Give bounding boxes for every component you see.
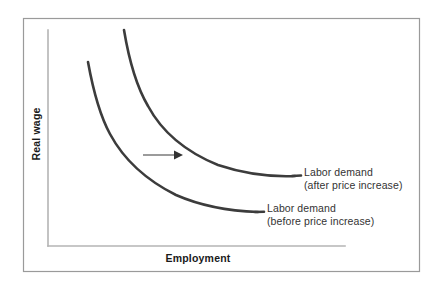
labor-demand-shift-figure: Labor demand (after price increase) Labo…: [0, 0, 440, 293]
curve-label-after-line2: (after price increase): [304, 179, 402, 192]
chart-canvas: [0, 0, 440, 293]
curve-label-after-line1: Labor demand: [304, 166, 402, 179]
x-axis-title: Employment: [118, 252, 278, 264]
curve-label-before: Labor demand (before price increase): [267, 202, 374, 228]
shift-arrow-head-icon: [174, 151, 183, 160]
figure-border: [24, 19, 420, 272]
curve-label-before-line1: Labor demand: [267, 202, 374, 215]
curve-label-after: Labor demand (after price increase): [304, 166, 402, 192]
leader-line-after: [292, 176, 301, 177]
curve-label-before-line2: (before price increase): [267, 215, 374, 228]
labor-demand-curve-after: [124, 30, 295, 176]
y-axis-title: Real wage: [30, 94, 42, 174]
